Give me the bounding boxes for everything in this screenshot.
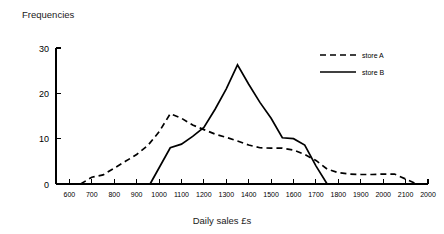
x-tick-label: 1200 [196, 191, 212, 198]
series-line-store-b [150, 65, 327, 184]
y-axis-tick-labels: 0102030 [39, 44, 49, 190]
x-tick-label: 1600 [286, 191, 302, 198]
x-tick-label: 1700 [308, 191, 324, 198]
x-tick-label: 900 [131, 191, 143, 198]
y-tick-label: 0 [44, 180, 49, 190]
frequency-polygon-chart: Frequencies 0102030 60070080090010001100… [0, 0, 444, 234]
x-tick-label: 1500 [263, 191, 279, 198]
x-tick-label: 2100 [398, 191, 414, 198]
chart-canvas: Frequencies 0102030 60070080090010001100… [0, 0, 444, 234]
x-tick-label: 1100 [174, 191, 189, 198]
x-tick-label: 1000 [151, 191, 167, 198]
y-tick-label: 30 [39, 44, 49, 54]
x-tick-label: 700 [86, 191, 98, 198]
series-line-store-a [81, 114, 417, 184]
chart-legend: store Astore B [320, 52, 385, 76]
x-tick-label: 1400 [241, 191, 257, 198]
x-tick-label: 1900 [353, 191, 369, 198]
y-tick-label: 20 [39, 89, 49, 99]
y-tick-label: 10 [39, 134, 49, 144]
legend-label-store-a: store A [362, 52, 384, 59]
x-tick-label: 2000 [420, 191, 436, 198]
x-tick-label: 1300 [219, 191, 235, 198]
x-tick-label: 800 [108, 191, 120, 198]
x-axis-tick-labels: 6007008009001000110012001300140015001600… [64, 191, 436, 198]
x-tick-label: 1800 [331, 191, 347, 198]
x-tick-label: 2000 [375, 191, 391, 198]
x-axis-title: Daily sales £s [193, 215, 252, 226]
legend-label-store-b: store B [362, 69, 385, 76]
series-group [81, 65, 417, 184]
y-axis-title: Frequencies [22, 9, 75, 20]
x-tick-label: 600 [64, 191, 76, 198]
